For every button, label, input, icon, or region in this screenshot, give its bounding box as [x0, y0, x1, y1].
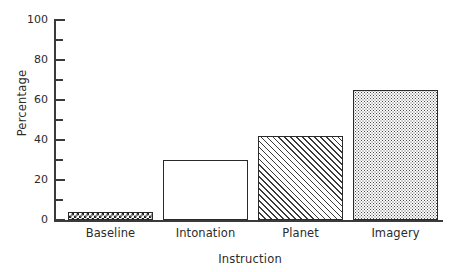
bar-planet [258, 136, 343, 220]
x-axis-title: Instruction [55, 252, 445, 266]
bar-intonation [163, 160, 248, 220]
category-label-baseline: Baseline [56, 226, 165, 240]
category-label-imagery: Imagery [341, 226, 450, 240]
x-axis-line [54, 220, 443, 222]
category-label-planet: Planet [246, 226, 355, 240]
bar-chart-figure: Percentage 020406080100 BaselineIntonati… [0, 0, 450, 272]
category-label-intonation: Intonation [151, 226, 260, 240]
bar-imagery [353, 90, 438, 220]
bars-container [0, 0, 450, 220]
bar-baseline [68, 212, 153, 220]
